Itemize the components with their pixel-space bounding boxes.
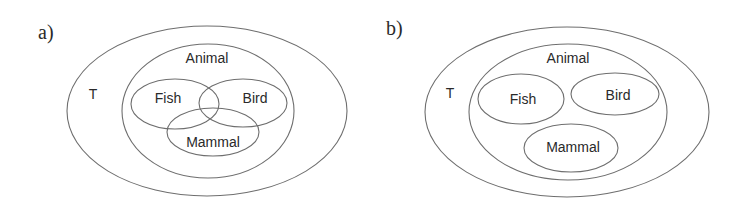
panel-a-label: a): [38, 21, 54, 44]
mammal-set-label: Mammal: [546, 139, 600, 155]
universe-set-t-label: T: [446, 85, 455, 101]
panel-b-label: b): [386, 17, 403, 40]
mammal-set-label: Mammal: [186, 134, 240, 150]
panel-a-overlapping-sets: a) T Animal Fish Bird Mammal: [38, 21, 347, 196]
bird-set-label: Bird: [606, 87, 631, 103]
fish-set-label: Fish: [510, 91, 536, 107]
venn-diagrams-figure: a) T Animal Fish Bird Mammal b) T Animal…: [0, 0, 738, 209]
universe-set-t-label: T: [89, 86, 98, 102]
animal-set-label: Animal: [547, 50, 590, 66]
animal-set-label: Animal: [186, 50, 229, 66]
bird-set-label: Bird: [243, 90, 268, 106]
panel-b-disjoint-sets: b) T Animal Fish Bird Mammal: [386, 17, 709, 197]
fish-set-label: Fish: [155, 90, 181, 106]
